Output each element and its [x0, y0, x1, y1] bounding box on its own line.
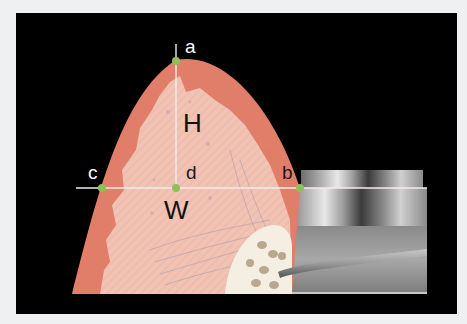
label-c: c: [88, 163, 98, 182]
point-d-marker: [172, 184, 180, 192]
point-a-marker: [172, 57, 180, 65]
point-c-marker: [98, 184, 106, 192]
papilla-diagram: [0, 0, 467, 324]
label-h: H: [183, 110, 202, 136]
label-b: b: [282, 163, 293, 182]
label-w: W: [164, 197, 189, 223]
label-a: a: [185, 37, 196, 56]
point-b-marker: [296, 184, 304, 192]
label-d: d: [186, 163, 197, 182]
